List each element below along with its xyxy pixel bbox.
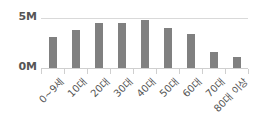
x-axis-line bbox=[41, 68, 248, 69]
y-tick-label: 5M bbox=[18, 10, 37, 23]
bar-7 bbox=[210, 52, 218, 68]
x-tick-label: 50대 bbox=[156, 74, 182, 100]
x-tick-mark bbox=[64, 69, 65, 74]
x-tick-mark bbox=[202, 69, 203, 74]
x-tick-mark bbox=[156, 69, 157, 74]
x-tick-label: 40대 bbox=[133, 74, 159, 100]
x-tick-mark bbox=[179, 69, 180, 74]
x-tick-label: 60대 bbox=[179, 74, 205, 100]
bar-0 bbox=[49, 37, 57, 68]
x-tick-label: 10대 bbox=[64, 74, 90, 100]
x-tick-label: 0~9세 bbox=[35, 74, 67, 106]
bar-5 bbox=[164, 28, 172, 68]
bar-4 bbox=[141, 20, 149, 68]
bar-6 bbox=[187, 34, 195, 68]
bar-1 bbox=[72, 30, 80, 68]
x-tick-label: 30대 bbox=[110, 74, 136, 100]
y-tick-label: 0M bbox=[18, 60, 37, 73]
x-tick-mark bbox=[41, 69, 42, 74]
bar-8 bbox=[233, 57, 241, 68]
x-tick-mark bbox=[248, 69, 249, 74]
x-tick-mark bbox=[133, 69, 134, 74]
x-tick-mark bbox=[225, 69, 226, 74]
x-tick-mark bbox=[110, 69, 111, 74]
x-tick-label: 20대 bbox=[87, 74, 113, 100]
x-tick-mark bbox=[87, 69, 88, 74]
bar-2 bbox=[95, 23, 103, 68]
bar-3 bbox=[118, 23, 126, 68]
gridline bbox=[41, 18, 248, 19]
age-distribution-bar-chart: 0M5M0~9세10대20대30대40대50대60대70대80대 이상 bbox=[0, 0, 265, 117]
